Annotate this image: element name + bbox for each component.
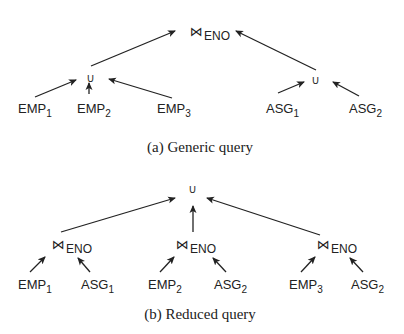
- edge-emp2-to-join2: [160, 257, 174, 272]
- join-attribute: ENO: [66, 242, 92, 256]
- edge-asg2-to-union: [333, 82, 359, 96]
- join-icon: ⋈: [52, 237, 65, 252]
- leaf-emp1: EMP1: [18, 102, 52, 115]
- leaf-emp2: EMP2: [148, 278, 182, 291]
- caption-generic-query: (a) Generic query: [147, 140, 253, 155]
- join-attribute: ENO: [204, 29, 230, 43]
- join-eno-node: ⋈ENO: [317, 238, 357, 251]
- edge-asg1-to-union: [278, 82, 304, 93]
- leaf-emp1: EMP1: [18, 278, 52, 291]
- leaf-asg2: ASG2: [351, 278, 384, 291]
- edge-union-to-join: [236, 31, 316, 70]
- leaf-asg2: ASG2: [214, 278, 247, 291]
- join-attribute: ENO: [331, 242, 357, 256]
- union-icon: ∪: [311, 74, 320, 86]
- edge-join1-to-union: [61, 198, 175, 232]
- join-icon: ⋈: [190, 24, 203, 39]
- leaf-emp3: EMP3: [157, 102, 191, 115]
- leaf-emp3: EMP3: [289, 278, 323, 291]
- edge-emp3-to-union: [109, 79, 172, 98]
- leaf-asg1: ASG1: [81, 278, 114, 291]
- join-eno-node: ⋈ENO: [176, 238, 216, 251]
- leaf-asg1: ASG1: [266, 102, 299, 115]
- edge-union-to-join: [91, 31, 175, 66]
- caption-reduced-query: (b) Reduced query: [144, 307, 256, 322]
- join-eno-node: ⋈ENO: [52, 238, 92, 251]
- leaf-emp2: EMP2: [77, 102, 111, 115]
- leaf-asg2: ASG2: [349, 102, 382, 115]
- edge-emp1-to-union: [35, 80, 76, 97]
- union-icon: ∪: [188, 183, 197, 195]
- join-attribute: ENO: [190, 242, 216, 256]
- join-icon: ⋈: [317, 237, 330, 252]
- join-icon: ⋈: [176, 237, 189, 252]
- generic-query-edges: [35, 31, 359, 98]
- edge-emp3-to-join3: [301, 257, 315, 272]
- edge-asg2-to-join3: [350, 258, 363, 272]
- edge-emp1-to-join1: [30, 257, 45, 272]
- edge-join3-to-union: [207, 198, 320, 235]
- join-eno-node: ⋈ENO: [190, 25, 230, 38]
- union-icon: ∪: [86, 72, 95, 84]
- query-tree-figure: ⋈ENO ∪ ∪ EMP1 EMP2 EMP3 ASG1 ASG2 (a) Ge…: [0, 0, 404, 334]
- reduced-query-edges: [30, 198, 363, 272]
- edge-asg1-to-join1: [78, 258, 90, 272]
- edges-layer: [0, 0, 404, 334]
- edge-asg2-to-join2: [213, 258, 226, 272]
